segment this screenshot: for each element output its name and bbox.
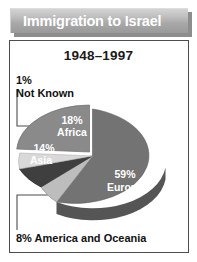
title-bar: Immigration to Israel — [10, 8, 188, 33]
pie-chart: 59% Europe 18% Africa 14% Asia — [9, 40, 189, 253]
label-europe-percent: 59% — [114, 168, 136, 180]
label-not-known-percent: 1% — [16, 74, 74, 87]
label-europe-name: Europe — [107, 181, 143, 193]
page-title: Immigration to Israel — [23, 13, 161, 29]
label-asia-name: Asia — [30, 154, 52, 166]
label-not-known: 1% Not Known — [16, 74, 74, 100]
label-africa-name: Africa — [57, 126, 87, 138]
label-america: 8% America and Oceania — [16, 232, 146, 245]
label-africa-percent: 18% — [61, 114, 83, 126]
label-not-known-name: Not Known — [16, 87, 74, 100]
immigration-pie-figure: Immigration to Israel 1948–1997 — [0, 0, 197, 262]
label-asia-percent: 14% — [33, 142, 55, 154]
